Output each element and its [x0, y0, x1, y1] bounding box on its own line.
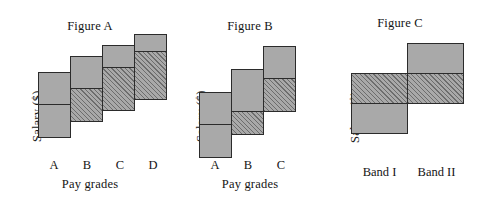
figure-a-x-axis-label: Pay grades — [0, 177, 180, 192]
x-tick-label: Band II — [408, 165, 465, 180]
figure-a-x-tick-labels: A B C D — [38, 158, 170, 173]
bar-segment-upper — [71, 57, 102, 89]
figure-c-title: Figure C — [320, 16, 480, 31]
bar-pay-grade-d — [134, 34, 167, 100]
bar-segment-lower-overlap — [135, 52, 166, 99]
bar-segment-lower — [39, 105, 70, 137]
bar-segment-lower-overlap — [103, 68, 134, 110]
bar-segment-upper — [39, 73, 70, 105]
figure-b-x-tick-labels: A B C — [199, 158, 298, 173]
bar-pay-grade-b — [231, 69, 264, 135]
x-tick-label: C — [265, 158, 297, 173]
bar-pay-grade-c — [263, 46, 296, 112]
bar-band-i — [351, 73, 408, 134]
x-tick-label: Band I — [351, 165, 408, 180]
bar-segment-upper — [135, 35, 166, 52]
bar-segment-lower — [352, 104, 407, 134]
bar-pay-grade-a — [199, 92, 232, 158]
figure-a-panel: Figure A Salary ($) A B C D Pay grades — [0, 0, 180, 201]
figure-b-panel: Figure B Salary ($) A B C Pay grades — [180, 0, 320, 201]
bar-pay-grade-a — [38, 72, 71, 138]
figure-c-panel: Figure C Salary ($) Band I Band II — [320, 0, 480, 201]
bar-segment-upper-overlap — [352, 74, 407, 104]
bar-segment-upper — [103, 46, 134, 68]
x-tick-label: A — [38, 158, 70, 173]
x-tick-label: A — [199, 158, 231, 173]
bar-pay-grade-c — [102, 45, 135, 111]
bar-segment-lower-overlap — [408, 74, 463, 104]
bar-segment-lower-overlap — [232, 112, 263, 134]
bar-segment-upper — [264, 47, 295, 79]
bar-segment-upper — [232, 70, 263, 112]
x-tick-label: B — [232, 158, 264, 173]
figure-a-title: Figure A — [0, 19, 180, 34]
bar-pay-grade-b — [70, 56, 103, 122]
figure-sheet: Figure A Salary ($) A B C D Pay grades — [0, 0, 480, 201]
x-tick-label: C — [104, 158, 136, 173]
bar-segment-lower-overlap — [264, 79, 295, 111]
figure-b-title: Figure B — [180, 19, 320, 34]
x-tick-label: D — [137, 158, 169, 173]
bar-segment-lower-overlap — [71, 89, 102, 121]
bar-segment-upper — [200, 93, 231, 125]
x-tick-label: B — [71, 158, 103, 173]
figure-c-x-tick-labels: Band I Band II — [351, 165, 465, 180]
bar-segment-upper — [408, 44, 463, 74]
bar-segment-lower — [200, 125, 231, 157]
bar-band-ii — [407, 43, 464, 104]
figure-b-x-axis-label: Pay grades — [180, 177, 320, 192]
